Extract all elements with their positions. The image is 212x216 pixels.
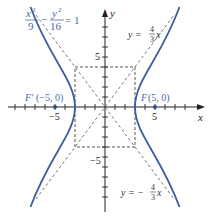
svg-text:4: 4 — [151, 183, 155, 192]
svg-text:F: F — [140, 92, 148, 103]
svg-text:F′: F′ — [24, 92, 34, 103]
svg-text:= 1: = 1 — [65, 14, 79, 26]
svg-text:y =: y = — [127, 29, 142, 40]
focus-right-label: F (5, 0) — [140, 92, 170, 104]
x-axis-label: x — [197, 111, 203, 123]
hyperbola-diagram: x 2 9 − y 2 16 = 1 y x −5 5 5 −5 F′ (−5,… — [0, 0, 212, 216]
x-axis-arrow-icon — [197, 104, 205, 110]
equation-label: x 2 9 − y 2 16 = 1 — [25, 6, 79, 32]
svg-text:x: x — [155, 29, 161, 40]
svg-text:2: 2 — [32, 6, 36, 14]
svg-text:x: x — [25, 7, 31, 19]
y-axis-label: y — [109, 7, 115, 19]
x-tick-label-neg5: −5 — [49, 111, 60, 122]
svg-text:4: 4 — [150, 25, 154, 34]
focus-left-point — [53, 105, 57, 109]
svg-text:y = −: y = − — [120, 187, 144, 198]
y-tick-label-pos5: 5 — [95, 51, 100, 62]
svg-text:2: 2 — [58, 6, 62, 14]
svg-text:3: 3 — [151, 193, 155, 202]
x-tick-label-pos5: 5 — [152, 111, 157, 122]
asymptote-upper-label: y = 4 3 x — [127, 25, 161, 44]
svg-text:y: y — [51, 7, 57, 19]
svg-text:3: 3 — [150, 35, 154, 44]
svg-text:(−5, 0): (−5, 0) — [36, 92, 63, 104]
svg-text:9: 9 — [28, 20, 34, 32]
focus-left-label: F′ (−5, 0) — [24, 92, 63, 104]
y-tick-label-neg5: −5 — [90, 155, 101, 166]
y-axis-arrow-icon — [102, 9, 108, 17]
svg-text:−: − — [41, 13, 47, 25]
svg-text:(5, 0): (5, 0) — [148, 92, 170, 104]
focus-right-point — [153, 105, 157, 109]
asymptote-lower-label: y = − 4 3 x — [120, 183, 162, 202]
svg-text:x: x — [156, 187, 162, 198]
svg-text:16: 16 — [50, 20, 62, 32]
